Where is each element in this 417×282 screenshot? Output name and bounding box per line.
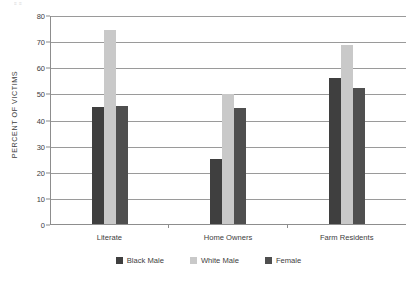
x-category-label: Literate <box>50 233 169 242</box>
plot-area <box>50 16 406 225</box>
bar-groups <box>51 16 406 224</box>
legend-item[interactable]: Female <box>265 256 301 265</box>
y-axis-tick-labels: 01020304050607080 <box>24 16 50 225</box>
bar[interactable] <box>104 30 116 224</box>
legend-label: Black Male <box>127 256 164 265</box>
legend-swatch-icon <box>116 257 123 264</box>
plot-wrapper: 01020304050607080 <box>24 16 406 232</box>
chart-legend: Black MaleWhite MaleFemale <box>0 256 417 265</box>
bar[interactable] <box>92 107 104 224</box>
y-tick-label: 70 <box>37 38 45 47</box>
y-axis-title: PERCENT OF VICTIMS <box>6 0 24 228</box>
y-tick-label: 50 <box>37 90 45 99</box>
bar-set <box>169 16 287 224</box>
y-tick-label: 40 <box>37 116 45 125</box>
legend-label: Female <box>276 256 301 265</box>
legend-item[interactable]: Black Male <box>116 256 164 265</box>
legend-item[interactable]: White Male <box>190 256 239 265</box>
bar-group <box>288 16 406 224</box>
x-axis-group-tick <box>168 224 169 228</box>
y-tick-label: 0 <box>41 221 45 230</box>
bar-chart: ≡ ≡ PERCENT OF VICTIMS 01020304050607080… <box>0 0 417 282</box>
bar-set <box>51 16 169 224</box>
bar[interactable] <box>116 106 128 224</box>
x-axis-category-labels: LiterateHome OwnersFarm Residents <box>50 233 406 242</box>
bar-set <box>288 16 406 224</box>
legend-swatch-icon <box>190 257 197 264</box>
bar-group <box>51 16 169 224</box>
legend-label: White Male <box>201 256 239 265</box>
x-category-label: Farm Residents <box>287 233 406 242</box>
y-tick-label: 30 <box>37 142 45 151</box>
y-tick-label: 20 <box>37 168 45 177</box>
y-axis-title-label: PERCENT OF VICTIMS <box>11 70 20 157</box>
y-tick-label: 60 <box>37 64 45 73</box>
y-tick-label: 10 <box>37 194 45 203</box>
bar[interactable] <box>341 45 353 224</box>
x-axis-group-tick <box>287 224 288 228</box>
y-tick-label: 80 <box>37 12 45 21</box>
x-category-label: Home Owners <box>169 233 288 242</box>
bar[interactable] <box>234 108 246 224</box>
bar[interactable] <box>353 88 365 225</box>
bar-group <box>169 16 287 224</box>
bar[interactable] <box>222 94 234 224</box>
bar[interactable] <box>210 159 222 224</box>
legend-swatch-icon <box>265 257 272 264</box>
bar[interactable] <box>329 78 341 224</box>
